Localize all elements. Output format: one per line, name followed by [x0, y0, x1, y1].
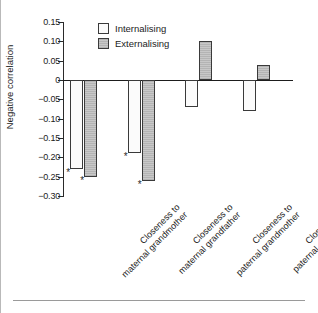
zero-baseline [63, 80, 293, 81]
y-axis-label: Negative correlation [3, 0, 17, 174]
y-tick-label: −0.25 [38, 172, 60, 182]
legend-swatch-internalising [98, 23, 109, 34]
bar-internalising [70, 80, 83, 169]
legend-item: Externalising [98, 37, 169, 50]
bottom-divider-rule [13, 300, 305, 301]
y-tick-label: 0.15 [43, 17, 60, 27]
significance-asterisk: * [80, 178, 84, 184]
bar-externalising [142, 80, 155, 181]
chart-legend: InternalisingExternalising [98, 22, 169, 52]
legend-item: Internalising [98, 22, 169, 35]
y-tick-label: −0.30 [38, 191, 60, 201]
y-tick-label: −0.20 [38, 152, 60, 162]
figure-panel: Negative correlation 0.150.100.050−0.05−… [0, 0, 318, 313]
y-tick-label: 0 [55, 75, 60, 85]
significance-asterisk: * [138, 182, 142, 188]
bar-externalising [257, 65, 270, 80]
y-tick-label: −0.05 [38, 94, 60, 104]
bar-externalising [199, 41, 212, 80]
legend-swatch-externalising [98, 38, 109, 49]
y-tick-label: 0.05 [43, 56, 60, 66]
legend-label: Internalising [115, 23, 166, 34]
y-tick-label: −0.10 [38, 114, 60, 124]
significance-asterisk: * [124, 154, 128, 160]
legend-label: Externalising [115, 38, 169, 49]
bar-externalising [84, 80, 97, 177]
y-tick-label: 0.10 [43, 36, 60, 46]
bar-internalising [128, 80, 141, 153]
significance-asterisk: * [66, 170, 70, 176]
y-tick-label: −0.15 [38, 133, 60, 143]
bar-internalising [243, 80, 256, 111]
bar-internalising [185, 80, 198, 107]
